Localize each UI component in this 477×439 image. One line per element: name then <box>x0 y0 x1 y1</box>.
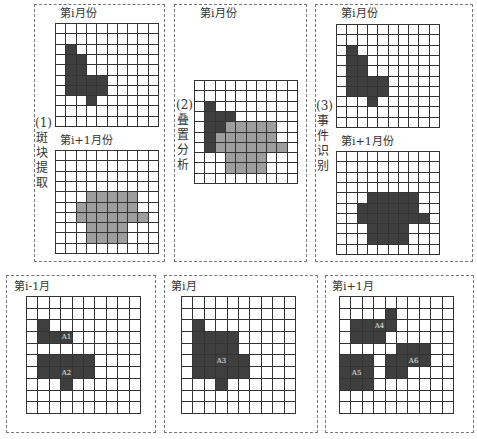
step-char: 分 <box>176 143 190 158</box>
grid-cell <box>117 116 127 126</box>
grid-cell <box>117 319 128 331</box>
grid-cell <box>204 331 215 343</box>
grid-cell <box>336 65 346 75</box>
grid-cell <box>76 64 86 74</box>
grid-cell <box>49 343 60 355</box>
grid-cell <box>373 354 384 366</box>
grid-cell <box>83 401 94 413</box>
grid-cell <box>26 390 37 402</box>
grid-cell <box>96 222 106 232</box>
grid-cell <box>106 296 117 308</box>
grid-cell <box>398 76 408 86</box>
grid-cell <box>83 308 94 320</box>
grid-cell <box>129 354 140 366</box>
grid-cell <box>407 366 418 378</box>
grid-cell <box>227 331 238 343</box>
grid-cell <box>367 55 377 65</box>
grid-cell <box>429 172 439 182</box>
grid-cell <box>107 150 117 160</box>
grid-cell <box>181 343 192 355</box>
grid-cell <box>373 366 384 378</box>
grid-cell <box>65 160 75 170</box>
grid-cell <box>181 378 192 390</box>
grid-cell <box>357 161 367 171</box>
grid-cell <box>129 319 140 331</box>
grid-cell <box>408 117 418 127</box>
grid-cell: A3 <box>215 354 226 366</box>
grid-cell <box>346 55 356 65</box>
grid-cell <box>249 319 260 331</box>
grid-cell <box>107 105 117 115</box>
grid-cell <box>194 162 204 172</box>
grid-cell <box>336 151 346 161</box>
grid-cell <box>398 213 408 223</box>
bottom-right-title: 第i+1月 <box>332 281 374 293</box>
panel1-bottom-title: 第i+1月份 <box>60 135 113 147</box>
grid-cell <box>76 191 86 201</box>
grid-cell <box>107 64 117 74</box>
grid-cell <box>204 132 214 142</box>
grid-cell <box>388 55 398 65</box>
grid-cell <box>336 106 346 116</box>
grid-cell <box>246 80 256 90</box>
grid-cell <box>192 331 203 343</box>
grid-cell <box>388 203 398 213</box>
grid-cell <box>204 101 214 111</box>
grid-cell <box>407 390 418 402</box>
grid-cell <box>429 151 439 161</box>
grid-cell <box>350 354 361 366</box>
grid-cell <box>26 296 37 308</box>
grid-cell <box>192 354 203 366</box>
grid-cell <box>408 172 418 182</box>
grid-cell <box>357 172 367 182</box>
grid-cell <box>336 223 346 233</box>
grid-cell <box>346 106 356 116</box>
grid-cell <box>336 213 346 223</box>
grid-cell <box>429 45 439 55</box>
grid-cell <box>26 331 37 343</box>
grid-cell <box>148 243 158 253</box>
grid-cell <box>388 151 398 161</box>
grid-cell <box>246 121 256 131</box>
grid-cell <box>367 172 377 182</box>
grid-bottom-next: A4A6A5 <box>339 296 454 414</box>
grid-cell <box>215 132 225 142</box>
grid-cell <box>388 172 398 182</box>
grid-cell <box>418 117 428 127</box>
grid-cell <box>96 54 106 64</box>
grid-cell <box>127 95 137 105</box>
grid-cell <box>96 33 106 43</box>
grid-cell <box>148 232 158 242</box>
grid-cell <box>418 106 428 116</box>
grid-cell <box>284 319 295 331</box>
grid-cell <box>238 390 249 402</box>
grid-cell <box>55 64 65 74</box>
grid-cell <box>26 378 37 390</box>
grid-cell <box>49 378 60 390</box>
grid-cell <box>117 222 127 232</box>
grid-cell <box>225 142 235 152</box>
grid-cell <box>408 86 418 96</box>
grid-cell <box>388 96 398 106</box>
grid-cell <box>408 34 418 44</box>
grid-cell <box>430 390 441 402</box>
grid-cell <box>418 96 428 106</box>
grid-cell <box>429 117 439 127</box>
grid-cell <box>367 117 377 127</box>
grid-cell <box>396 308 407 320</box>
grid-cell <box>336 233 346 243</box>
grid-cell <box>442 343 453 355</box>
grid-cell <box>148 202 158 212</box>
panel3-top-title: 第i月份 <box>341 8 378 20</box>
grid-cell <box>137 232 147 242</box>
grid-cell <box>377 117 387 127</box>
grid-cell <box>127 44 137 54</box>
grid-cell <box>65 105 75 115</box>
grid-cell <box>107 75 117 85</box>
grid-cell <box>284 331 295 343</box>
grid-cell <box>256 121 266 131</box>
grid-cell <box>336 244 346 254</box>
grid-cell <box>418 223 428 233</box>
grid-cell <box>367 96 377 106</box>
grid-cell <box>107 202 117 212</box>
